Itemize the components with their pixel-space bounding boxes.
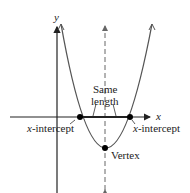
left-intercept-label: x-intercept <box>27 123 74 134</box>
y-axis-label: y <box>54 12 59 23</box>
right-intercept-label: x-intercept <box>133 123 180 134</box>
same-length-label-1: Same <box>93 84 117 95</box>
right-intercept-point <box>127 114 133 120</box>
vertex-point <box>102 145 108 151</box>
same-length-label-2: length <box>91 96 119 107</box>
x-axis-label: x <box>156 111 161 122</box>
vertex-label: Vertex <box>111 150 140 161</box>
left-intercept-point <box>77 114 83 120</box>
